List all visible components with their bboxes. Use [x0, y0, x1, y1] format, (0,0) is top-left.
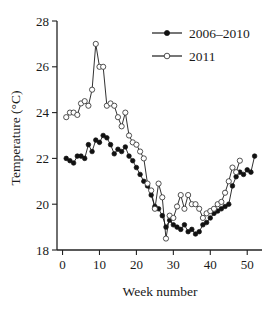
data-point [145, 181, 150, 186]
data-point [138, 172, 143, 177]
data-point [211, 206, 216, 211]
data-point [123, 145, 128, 150]
y-tick-label-22: 22 [36, 151, 49, 166]
legend-marker-open-circle [164, 53, 170, 59]
chart-legend: 2006–2010 2011 [152, 26, 250, 64]
data-point [105, 135, 110, 140]
data-point [178, 227, 183, 232]
axis-group: 182022242628 01020304050 [36, 14, 262, 273]
data-point [134, 165, 139, 170]
data-point [141, 156, 146, 161]
data-point [182, 223, 187, 228]
data-point [115, 115, 120, 120]
data-point [97, 140, 102, 145]
data-point [237, 158, 242, 163]
x-tick-label-0: 0 [59, 257, 66, 272]
data-point [241, 172, 246, 177]
data-point [230, 165, 235, 170]
data-point [160, 195, 165, 200]
data-point [126, 133, 131, 138]
x-tick-label-10: 10 [93, 257, 106, 272]
data-point [193, 202, 198, 207]
data-point [226, 179, 231, 184]
data-point [119, 149, 124, 154]
series-2 [64, 41, 243, 241]
x-tick-label-40: 40 [204, 257, 217, 272]
data-point [112, 103, 117, 108]
data-point [149, 188, 154, 193]
legend-item-2011[interactable]: 2011 [152, 49, 216, 64]
data-point [71, 161, 76, 166]
data-point [174, 204, 179, 209]
x-axis-title: Week number [122, 284, 198, 299]
temperature-week-chart: 182022242628 01020304050 Temperature (°C… [0, 0, 273, 309]
data-point [64, 115, 69, 120]
data-point [208, 216, 213, 221]
data-point [101, 64, 106, 69]
data-point [134, 142, 139, 147]
x-axis-ticks: 01020304050 [59, 250, 253, 272]
legend-marker-filled-circle [164, 30, 169, 35]
plot-area [64, 41, 257, 241]
legend-item-2006-2010[interactable]: 2006–2010 [152, 26, 250, 41]
data-point [112, 152, 117, 157]
data-point [86, 103, 91, 108]
data-point [182, 206, 187, 211]
y-tick-label-18: 18 [36, 243, 49, 258]
data-point [123, 110, 128, 115]
data-point [219, 199, 224, 204]
data-point [75, 112, 80, 117]
legend-label-2011: 2011 [189, 49, 216, 64]
data-point [186, 192, 191, 197]
data-point [130, 158, 135, 163]
data-point [86, 142, 91, 147]
data-point [108, 142, 113, 147]
data-point [222, 190, 227, 195]
data-point [230, 184, 235, 189]
data-point [82, 156, 87, 161]
data-point [89, 87, 94, 92]
data-point [138, 149, 143, 154]
data-point [163, 236, 168, 241]
y-axis-title: Temperature (°C) [8, 91, 23, 186]
y-tick-label-24: 24 [36, 105, 50, 120]
data-point [178, 192, 183, 197]
data-point [204, 220, 209, 225]
data-point [234, 170, 239, 175]
data-point [93, 41, 98, 46]
data-point [171, 215, 176, 220]
x-tick-label-30: 30 [167, 257, 180, 272]
data-point [197, 229, 202, 234]
data-point [249, 170, 254, 175]
data-point [226, 202, 231, 207]
data-point [252, 154, 257, 159]
data-point [90, 149, 95, 154]
data-point [190, 227, 195, 232]
data-point [82, 99, 87, 104]
chart-canvas: 182022242628 01020304050 Temperature (°C… [0, 0, 273, 309]
x-tick-label-50: 50 [241, 257, 254, 272]
x-tick-label-20: 20 [130, 257, 143, 272]
y-tick-label-20: 20 [36, 197, 49, 212]
y-tick-label-28: 28 [36, 14, 49, 29]
y-tick-label-26: 26 [36, 59, 50, 74]
data-point [197, 206, 202, 211]
data-point [127, 154, 132, 159]
legend-label-2006-2010: 2006–2010 [189, 26, 250, 41]
data-point [200, 215, 205, 220]
data-point [152, 206, 157, 211]
data-point [156, 181, 161, 186]
y-axis-ticks: 182022242628 [36, 14, 57, 258]
data-point [119, 124, 124, 129]
